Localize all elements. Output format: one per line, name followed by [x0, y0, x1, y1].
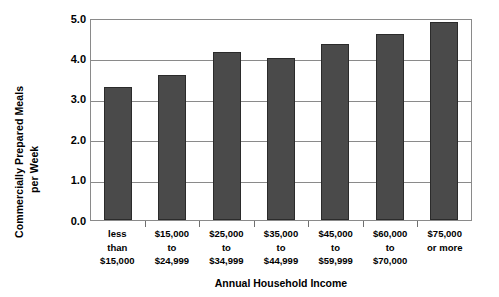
x-axis-category-label-line: $15,000 [90, 254, 145, 268]
x-axis-category-label: $60,000to$70,000 [363, 227, 418, 273]
x-axis-category-label-line: $59,999 [308, 254, 363, 268]
plot-area [90, 19, 472, 221]
x-axis-category-label-line: $15,000 [145, 227, 200, 241]
bar[interactable] [267, 58, 295, 220]
x-axis-category-label-line: than [90, 241, 145, 255]
x-axis-category-label-line: $34,999 [199, 254, 254, 268]
bar[interactable] [213, 52, 241, 220]
bar-slot [254, 20, 308, 220]
y-axis-tick-label: 5.0 [54, 14, 86, 25]
bar[interactable] [430, 22, 458, 220]
x-axis-title: Annual Household Income [90, 277, 472, 289]
x-axis-category-label-line: $24,999 [145, 254, 200, 268]
x-axis-category-label-line: $44,999 [254, 254, 309, 268]
x-axis-category-label-line: to [254, 241, 309, 255]
bar[interactable] [104, 87, 132, 220]
bar-slot [91, 20, 145, 220]
bar-series [91, 20, 471, 220]
x-axis-category-labels: lessthan$15,000$15,000to$24,999$25,000to… [90, 227, 472, 273]
x-axis-category-label-line: $75,000 [417, 227, 472, 241]
y-axis-tick-label: 3.0 [54, 94, 86, 105]
x-axis-category-label-line: $60,000 [363, 227, 418, 241]
x-axis-category-label: $75,000or more [417, 227, 472, 273]
x-axis-category-label-line: or more [417, 241, 472, 255]
x-axis-category-label-line: to [363, 241, 418, 255]
x-axis-category-label: $35,000to$44,999 [254, 227, 309, 273]
x-axis-category-label: lessthan$15,000 [90, 227, 145, 273]
bar-slot [417, 20, 471, 220]
bar-slot [308, 20, 362, 220]
y-axis-tick-labels: 5.04.03.02.01.00.0 [52, 0, 86, 240]
bar[interactable] [158, 75, 186, 220]
x-axis-category-label-line: to [145, 241, 200, 255]
bar[interactable] [321, 44, 349, 220]
y-axis-title: Commercially Prepared Meals per Week [0, 0, 56, 240]
x-axis-category-label-line: to [199, 241, 254, 255]
x-axis-category-label-line: less [90, 227, 145, 241]
bar-chart-figure: Commercially Prepared Meals per Week 5.0… [0, 0, 499, 297]
x-axis-category-label-line: $70,000 [363, 254, 418, 268]
x-axis-category-label-line: $45,000 [308, 227, 363, 241]
y-axis-tick-label: 2.0 [54, 135, 86, 146]
x-axis-category-label: $25,000to$34,999 [199, 227, 254, 273]
x-axis-category-label-line [417, 254, 472, 268]
x-axis-category-label-line: to [308, 241, 363, 255]
y-axis-title-line-1: Commercially Prepared Meals [13, 8, 26, 238]
y-axis-tick-label: 4.0 [54, 54, 86, 65]
x-axis-category-label: $15,000to$24,999 [145, 227, 200, 273]
bar[interactable] [376, 34, 404, 220]
bar-slot [362, 20, 416, 220]
y-axis-title-line-2: per Week [28, 0, 41, 193]
x-axis-category-label-line: $25,000 [199, 227, 254, 241]
x-axis-category-label: $45,000to$59,999 [308, 227, 363, 273]
bar-slot [200, 20, 254, 220]
y-axis-tick-label: 0.0 [54, 216, 86, 227]
bar-slot [145, 20, 199, 220]
y-axis-tick-label: 1.0 [54, 175, 86, 186]
x-axis-category-label-line: $35,000 [254, 227, 309, 241]
